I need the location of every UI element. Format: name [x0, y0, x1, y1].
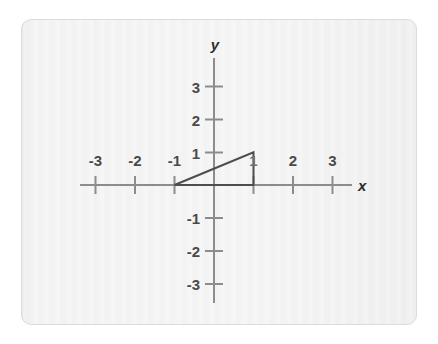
y-tick-label-2: 2 — [192, 112, 200, 127]
x-tick-label--1: -1 — [168, 153, 181, 168]
x-axis-label: x — [358, 178, 366, 193]
axes-group — [80, 58, 352, 303]
y-tick-label--1: -1 — [187, 211, 200, 226]
y-tick-label-1: 1 — [192, 145, 200, 160]
y-tick-label-3: 3 — [192, 79, 200, 94]
y-axis-label: y — [211, 37, 219, 52]
x-tick-label--3: -3 — [89, 153, 102, 168]
x-tick-label-1: 1 — [249, 153, 257, 168]
y-tick-label--2: -2 — [187, 244, 200, 259]
x-tick-label--2: -2 — [128, 153, 141, 168]
x-tick-label-3: 3 — [328, 153, 336, 168]
y-tick-label--3: -3 — [187, 277, 200, 292]
x-tick-label-2: 2 — [289, 153, 297, 168]
